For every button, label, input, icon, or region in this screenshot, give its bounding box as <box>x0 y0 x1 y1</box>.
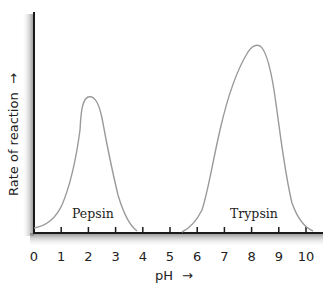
x-tick-label: 10 <box>298 249 315 264</box>
x-tick-label: 5 <box>166 249 174 264</box>
x-axis-shadow <box>30 233 323 247</box>
y-axis-arrow-icon: → <box>6 73 21 84</box>
pepsin-label: Pepsin <box>72 206 114 221</box>
x-axis-tick-labels: 012345678910 <box>30 249 314 264</box>
y-axis-title: Rate of reaction → <box>6 73 21 196</box>
x-tick-label: 9 <box>275 249 283 264</box>
x-tick-label: 1 <box>57 249 65 264</box>
x-tick-label: 4 <box>139 249 147 264</box>
x-tick-label: 7 <box>220 249 228 264</box>
x-tick-label: 3 <box>111 249 119 264</box>
trypsin-label: Trypsin <box>230 206 278 221</box>
enzyme-ph-chart: 012345678910 Pepsin Trypsin pH → Rate of… <box>0 0 335 294</box>
x-tick-label: 8 <box>247 249 255 264</box>
x-tick-label: 0 <box>30 249 38 264</box>
x-axis-arrow-icon: → <box>182 268 193 283</box>
x-tick-label: 2 <box>84 249 92 264</box>
x-tick-label: 6 <box>193 249 201 264</box>
trypsin-curve <box>182 45 313 232</box>
x-axis-title: pH → <box>155 268 193 283</box>
x-axis-title-text: pH <box>155 268 173 283</box>
y-axis-shadow <box>22 14 34 236</box>
y-axis-title-text: Rate of reaction <box>6 92 21 196</box>
